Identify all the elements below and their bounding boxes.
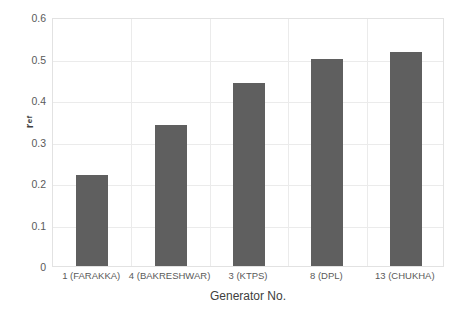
y-axis-tick-label: 0.5: [31, 54, 46, 66]
bar-chart: ref 00.10.20.30.40.50.6 1 (FARAKKA)4 (BA…: [0, 0, 456, 313]
x-axis-tick-label: 1 (FARAKKA): [62, 270, 120, 281]
y-axis-tick-label: 0.3: [31, 137, 46, 149]
bar: [233, 83, 265, 266]
bar: [311, 59, 343, 266]
y-axis-tick-label: 0.1: [31, 220, 46, 232]
x-axis-tick-label: 8 (DPL): [310, 270, 343, 281]
x-axis-title: Generator No.: [52, 289, 444, 303]
y-axis-tick-label: 0: [40, 261, 46, 273]
y-axis-tick-labels: 00.10.20.30.40.50.6: [14, 18, 50, 267]
y-axis-tick-label: 0.6: [31, 12, 46, 24]
y-axis-tick-label: 0.4: [31, 95, 46, 107]
bars-layer: [53, 19, 443, 266]
x-axis-tick-label: 4 (BAKRESHWAR): [129, 270, 210, 281]
bar: [76, 175, 108, 266]
x-axis-tick-label: 13 (CHUKHA): [375, 270, 435, 281]
plot-area: [52, 18, 444, 267]
x-axis-tick-label: 3 (KTPS): [228, 270, 267, 281]
bar: [155, 125, 187, 266]
y-axis-tick-label: 0.2: [31, 178, 46, 190]
x-axis-tick-labels: 1 (FARAKKA)4 (BAKRESHWAR)3 (KTPS)8 (DPL)…: [52, 270, 444, 286]
bar: [390, 52, 422, 266]
